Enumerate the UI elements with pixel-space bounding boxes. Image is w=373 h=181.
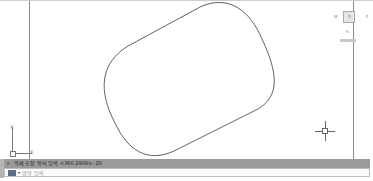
ucs-y-axis <box>12 127 13 153</box>
chevron-down-icon[interactable]: ▾ <box>18 169 20 177</box>
crosshair-cursor-icon <box>315 121 335 141</box>
command-icon[interactable] <box>8 170 16 176</box>
ucs-icon: Y X <box>5 127 35 157</box>
pickbox <box>322 128 328 134</box>
command-history-text: 객체 조정 형식 입력 <360.2909>: 20 <box>14 160 102 166</box>
command-input[interactable]: ▾명령 입력 <box>4 168 370 177</box>
viewcube[interactable]: W 위 E S <box>332 5 372 45</box>
viewcube-east-label[interactable]: E <box>366 14 369 19</box>
close-icon[interactable]: × <box>4 159 12 168</box>
viewcube-south-label[interactable]: S <box>346 29 349 34</box>
command-history: × 객체 조정 형식 입력 <360.2909>: 20 <box>4 159 370 168</box>
command-input-placeholder: 명령 입력 <box>22 170 44 176</box>
drawing-canvas[interactable]: W 위 E S Y X <box>0 0 373 161</box>
ucs-y-label: Y <box>10 124 13 130</box>
viewcube-top-face[interactable]: 위 <box>343 11 355 23</box>
ucs-x-label: X <box>30 149 33 155</box>
ucs-origin-box <box>10 151 16 157</box>
wcs-menu[interactable] <box>340 39 356 42</box>
viewcube-west-label[interactable]: W <box>334 14 338 19</box>
